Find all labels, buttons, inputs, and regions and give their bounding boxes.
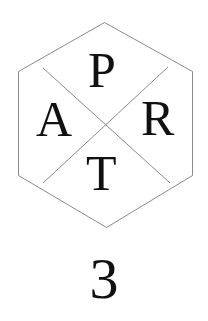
letter-top: P <box>88 45 116 95</box>
letter-bottom: T <box>86 148 117 198</box>
part-number: 3 <box>0 250 208 308</box>
letter-left: A <box>36 94 72 144</box>
letter-right: R <box>141 93 174 143</box>
